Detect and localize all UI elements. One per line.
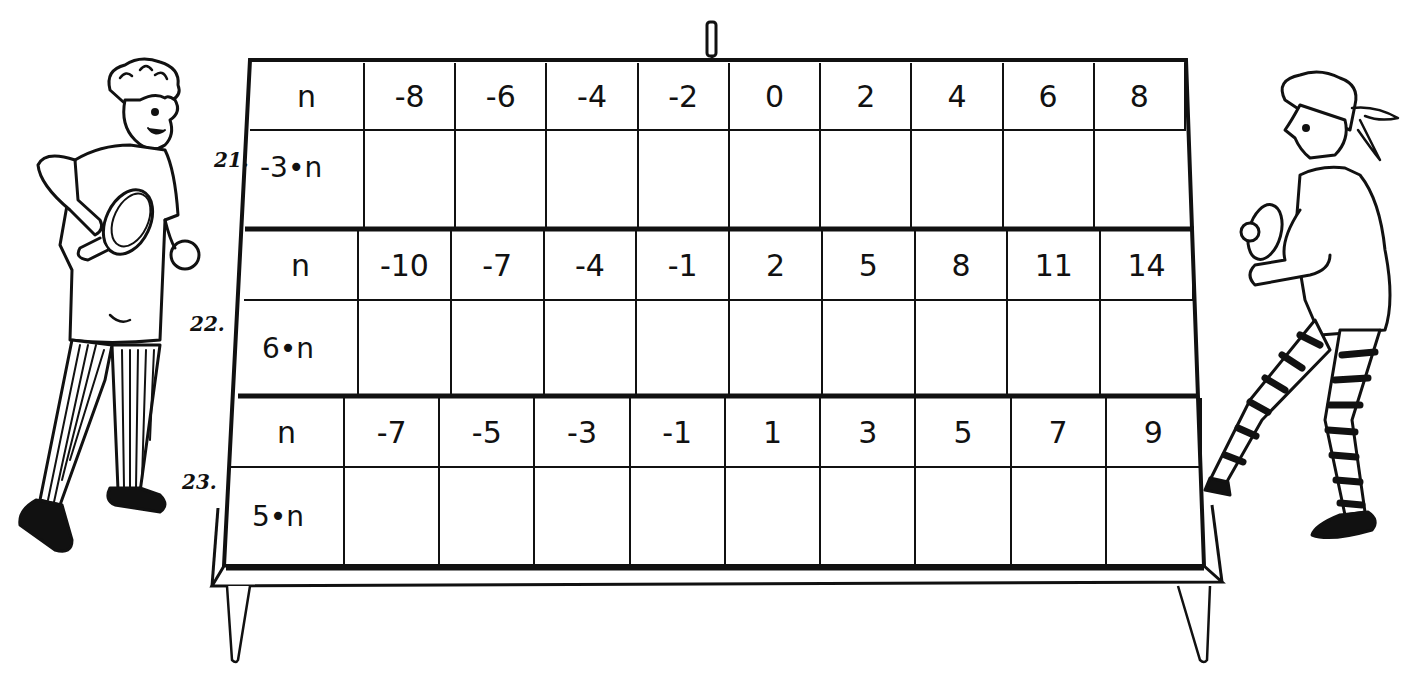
answer-cell[interactable] [1095,131,1186,227]
problem-21-table: n -8 -6 -4 -2 0 2 4 6 8 -3•n [250,63,1186,227]
n-value-cell: -6 [456,63,547,131]
n-value-cell: 3 [821,398,916,468]
problem-23-table: n -7 -5 -3 -1 1 3 5 7 9 5•n [230,398,1202,564]
answer-cell[interactable] [631,468,726,564]
answer-cell[interactable] [1004,131,1095,227]
n-header-cell: n [244,231,359,301]
n-value-cell: 5 [916,398,1011,468]
answer-cell[interactable] [637,301,730,395]
n-value-cell: 5 [823,231,916,301]
n-header-cell: n [230,398,345,468]
answer-cell[interactable] [821,468,916,564]
n-value-cell: 9 [1107,398,1202,468]
problem-22-table: n -10 -7 -4 -1 2 5 8 11 14 6•n [244,231,1194,395]
ping-pong-table-scene: 21. 22. 23. n -8 -6 -4 -2 0 2 4 6 8 -3•n… [0,0,1424,674]
answer-cell[interactable] [916,468,1011,564]
n-value-cell: 2 [730,231,823,301]
problem-number-22: 22. [190,312,225,336]
answer-cell[interactable] [1008,301,1101,395]
answer-cell[interactable] [452,301,545,395]
n-header-cell: n [250,63,365,131]
answer-cell[interactable] [1012,468,1107,564]
table-leg-left-icon [227,586,250,662]
n-value-cell: -7 [452,231,545,301]
n-value-cell: 1 [726,398,821,468]
answer-cell[interactable] [821,131,912,227]
problem-number-23: 23. [182,470,217,494]
answer-cell[interactable] [912,131,1003,227]
net-post-icon [707,22,716,62]
n-value-cell: 8 [1095,63,1186,131]
n-value-cell: 4 [912,63,1003,131]
answer-cell[interactable] [916,301,1009,395]
answer-cell[interactable] [1101,301,1194,395]
n-value-cell: 0 [730,63,821,131]
n-value-cell: 6 [1004,63,1095,131]
n-value-cell: -1 [631,398,726,468]
answer-cell[interactable] [639,131,730,227]
n-value-cell: 8 [916,231,1009,301]
n-value-cell: 11 [1008,231,1101,301]
n-value-cell: 14 [1101,231,1194,301]
boy-player-icon [20,59,199,551]
answer-cell[interactable] [823,301,916,395]
n-value-cell: -8 [365,63,456,131]
answer-cell[interactable] [545,301,638,395]
answer-cell[interactable] [730,301,823,395]
answer-cell[interactable] [535,468,630,564]
answer-cell[interactable] [345,468,440,564]
n-value-cell: 7 [1012,398,1107,468]
answer-cell[interactable] [547,131,638,227]
n-value-cell: -1 [637,231,730,301]
n-value-cell: -3 [535,398,630,468]
answer-cell[interactable] [440,468,535,564]
n-value-cell: 2 [821,63,912,131]
n-value-cell: -4 [547,63,638,131]
answer-cell[interactable] [726,468,821,564]
expression-cell: -3•n [250,131,365,227]
answer-cell[interactable] [365,131,456,227]
answer-cell[interactable] [1107,468,1202,564]
answer-cell[interactable] [456,131,547,227]
problem-number-21: 21. [214,148,249,172]
n-value-cell: -7 [345,398,440,468]
n-value-cell: -10 [359,231,452,301]
answer-cell[interactable] [730,131,821,227]
expression-cell: 6•n [244,301,359,395]
answer-cell[interactable] [359,301,452,395]
girl-player-icon [1205,72,1398,537]
n-value-cell: -5 [440,398,535,468]
n-value-cell: -4 [545,231,638,301]
expression-cell: 5•n [230,468,345,564]
table-leg-right-icon [1178,586,1210,662]
n-value-cell: -2 [639,63,730,131]
